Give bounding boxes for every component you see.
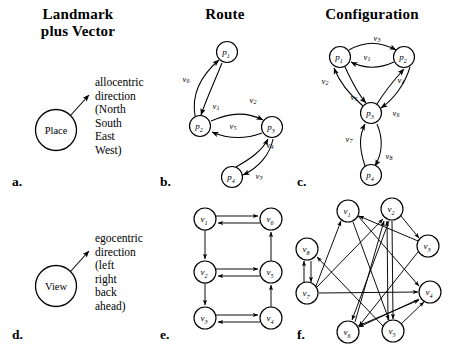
edge-p3-p2 (212, 132, 262, 137)
edge-label-c-v7: v7 (346, 134, 354, 144)
edge-f-v7-v1 (316, 221, 341, 286)
panel-a-group: Place (36, 95, 90, 151)
edge-c-p2-p3 (381, 67, 410, 108)
panel-c-graph: p1 p2 p3 p4 v1 v2 v3 v4 v5 v6 v7 v8 (322, 33, 415, 186)
panel-b-graph: p1 p2 p3 p4 v1 v2 v3 v4 v5 v6 (183, 42, 283, 188)
panel-d-group: View (36, 251, 90, 307)
view-node-label: View (45, 281, 68, 292)
panel-f-graph: v1 v2 v8 v3 v7 v4 v6 v5 (296, 198, 441, 343)
edge-f-v2-v5 (392, 221, 393, 319)
panel-e-graph: v1 v6 v2 v5 v3 v4 (194, 208, 282, 329)
edge-label-b-v5: v5 (230, 121, 237, 131)
edge-c-p1-p2 (349, 43, 396, 50)
edge-p2-p3 (211, 114, 263, 121)
edge-label-c-v2: v2 (322, 76, 329, 86)
edge-label-c-v4: v4 (398, 75, 405, 85)
edge-c-p4-p3 (361, 124, 366, 166)
diagram-canvas: Place View p1 p2 p3 (0, 0, 456, 359)
place-node-label: Place (45, 125, 68, 136)
edge-c-p2-p1 (351, 62, 394, 67)
egocentric-direction-arrow (70, 251, 89, 272)
edge-label-b-v3: v3 (256, 171, 263, 181)
edge-p4-p3 (236, 139, 268, 167)
edge-c-p3-p4 (375, 124, 381, 166)
edge-label-c-v3: v3 (374, 33, 381, 43)
figure-root: Landmark plus Vector Route Configuration… (0, 0, 456, 359)
edge-label-c-v6: v6 (393, 108, 400, 118)
edge-label-b-v2: v2 (250, 95, 257, 105)
edge-f-v7-v4 (319, 292, 418, 293)
edge-label-c-v1: v1 (364, 52, 371, 62)
edge-label-c-v5: v5 (351, 92, 358, 102)
allocentric-direction-arrow (70, 95, 89, 116)
edge-f-v6-v2 (355, 221, 384, 322)
edge-label-b-v6: v6 (183, 74, 190, 84)
edge-f-v5-v2 (387, 221, 388, 320)
edge-label-b-v1: v1 (213, 101, 220, 111)
edge-f-v5-v8 (317, 257, 383, 326)
edge-label-c-v8: v8 (386, 151, 393, 161)
